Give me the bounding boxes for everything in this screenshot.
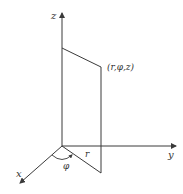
y-axis-label: y [167, 149, 174, 160]
angle-arc [52, 155, 72, 160]
radius-label: r [85, 149, 90, 159]
x-axis [20, 146, 62, 183]
x-axis-label: x [16, 168, 22, 179]
coordinate-half-plane [62, 48, 101, 173]
point-label: (r,φ,z) [107, 62, 135, 72]
angle-label: φ [63, 161, 70, 171]
cylindrical-coordinates-diagram: z y x (r,φ,z) r φ [0, 0, 183, 194]
z-axis-label: z [50, 10, 57, 21]
